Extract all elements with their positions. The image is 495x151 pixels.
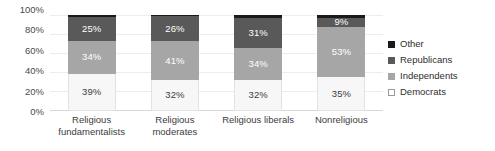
- bar-segment-label: 26%: [165, 24, 184, 34]
- bar-segment-republicans[interactable]: 31%: [234, 18, 282, 48]
- bar-segment-label: 9%: [335, 18, 349, 27]
- bar-segment-label: 34%: [249, 59, 268, 69]
- bar-column-religious-liberals[interactable]: 31% 34% 32%: [231, 15, 286, 111]
- legend-item-label: Republicans: [400, 55, 452, 65]
- bar-segment-independents[interactable]: 34%: [68, 41, 116, 74]
- legend-swatch-icon: [388, 73, 395, 80]
- bar-segment-label: 32%: [165, 90, 184, 100]
- bar-segment-independents[interactable]: 34%: [234, 48, 282, 81]
- bar-segment-democrats[interactable]: 32%: [151, 80, 199, 111]
- bar-stack: 26% 41% 32%: [151, 15, 199, 111]
- bar-segment-democrats[interactable]: 32%: [234, 80, 282, 111]
- plot-area: 25% 34% 39% 26%: [50, 15, 383, 111]
- bar-column-religious-moderates[interactable]: 26% 41% 32%: [147, 15, 202, 111]
- y-axis: 100% 80% 60% 40% 20% 0%: [0, 10, 44, 112]
- bar-stack: 31% 34% 32%: [234, 15, 282, 111]
- x-axis-category-label: Religious liberals: [222, 114, 294, 148]
- x-axis: Religious fundamentalists Religious mode…: [50, 114, 383, 148]
- legend-item-republicans[interactable]: Republicans: [388, 52, 493, 68]
- x-axis-category-label: Religious fundamentalists: [56, 114, 128, 148]
- bar-column-nonreligious[interactable]: 9% 53% 35%: [314, 15, 369, 111]
- bar-segment-label: 53%: [332, 47, 351, 57]
- bar-segment-label: 25%: [82, 24, 101, 34]
- legend-item-independents[interactable]: Independents: [388, 68, 493, 84]
- bar-segment-label: 31%: [249, 28, 268, 38]
- y-axis-tick: 40%: [0, 66, 44, 76]
- legend-item-label: Independents: [400, 71, 458, 81]
- legend-swatch-icon: [388, 41, 395, 48]
- x-axis-category-label: Nonreligious: [305, 114, 377, 148]
- y-axis-tick: 20%: [0, 87, 44, 97]
- bar-group: 25% 34% 39% 26%: [50, 15, 383, 111]
- legend-item-label: Other: [400, 39, 424, 49]
- legend: Other Republicans Independents Democrats: [388, 36, 493, 100]
- bar-segment-democrats[interactable]: 39%: [68, 74, 116, 111]
- bar-segment-republicans[interactable]: 9%: [317, 18, 365, 27]
- legend-swatch-icon: [388, 57, 395, 64]
- bar-segment-label: 32%: [249, 90, 268, 100]
- bar-segment-label: 39%: [82, 87, 101, 97]
- legend-item-democrats[interactable]: Democrats: [388, 84, 493, 100]
- legend-item-other[interactable]: Other: [388, 36, 493, 52]
- bar-segment-republicans[interactable]: 26%: [151, 16, 199, 41]
- bar-segment-independents[interactable]: 41%: [151, 41, 199, 80]
- bar-segment-democrats[interactable]: 35%: [317, 77, 365, 111]
- legend-item-label: Democrats: [400, 87, 446, 97]
- legend-swatch-icon: [388, 89, 395, 96]
- bar-segment-republicans[interactable]: 25%: [68, 17, 116, 41]
- y-axis-tick: 0%: [0, 107, 44, 117]
- x-axis-category-label: Religious moderates: [139, 114, 211, 148]
- stacked-bar-chart: 100% 80% 60% 40% 20% 0% 25%: [0, 0, 495, 151]
- bar-stack: 9% 53% 35%: [317, 15, 365, 111]
- bar-segment-label: 34%: [82, 52, 101, 62]
- bar-segment-label: 41%: [165, 56, 184, 66]
- bar-stack: 25% 34% 39%: [68, 15, 116, 111]
- bar-column-religious-fundamentalists[interactable]: 25% 34% 39%: [64, 15, 119, 111]
- bar-segment-label: 35%: [332, 89, 351, 99]
- y-axis-tick: 60%: [0, 46, 44, 56]
- y-axis-tick: 100%: [0, 5, 44, 15]
- y-axis-tick: 80%: [0, 26, 44, 36]
- bar-segment-independents[interactable]: 53%: [317, 27, 365, 78]
